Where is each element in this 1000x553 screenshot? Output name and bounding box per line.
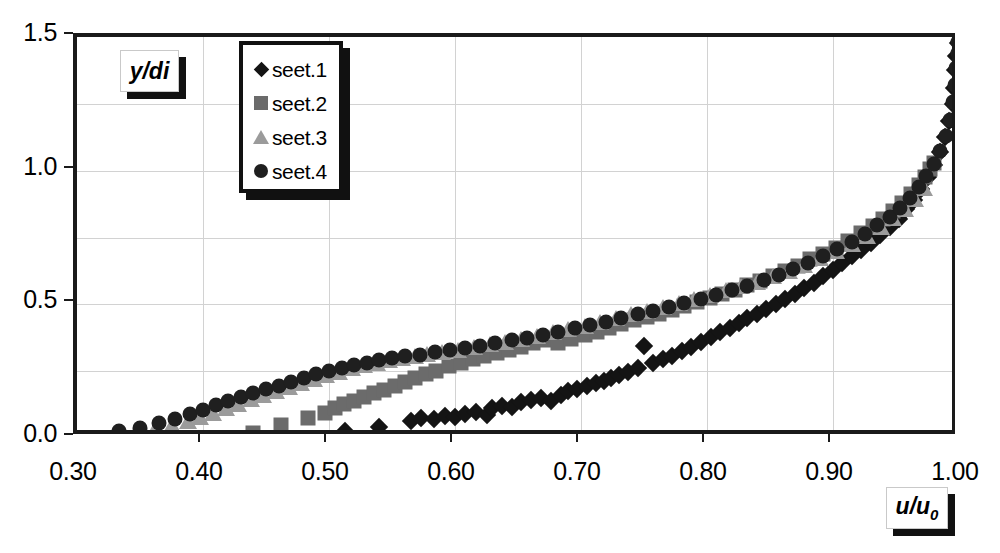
data-point-seet-3 xyxy=(576,318,594,334)
x-tick-mark xyxy=(198,434,200,442)
data-point-seet-4 xyxy=(296,371,311,386)
data-point-seet-3 xyxy=(368,355,386,371)
data-point-seet-2 xyxy=(454,355,469,370)
data-point-seet-1 xyxy=(681,338,699,356)
y-tick-mark xyxy=(64,166,73,168)
data-point-seet-4 xyxy=(551,324,566,339)
y-tick-label: 0.5 xyxy=(0,287,57,312)
data-point-seet-2 xyxy=(407,370,422,385)
data-point-seet-1 xyxy=(370,418,388,434)
data-point-seet-1 xyxy=(889,210,907,228)
data-point-seet-2 xyxy=(274,418,289,433)
x-tick-label: 0.50 xyxy=(265,459,385,484)
data-point-seet-3 xyxy=(406,348,424,364)
data-point-seet-2 xyxy=(318,405,333,420)
data-point-seet-2 xyxy=(828,240,843,255)
legend-item-seet-1[interactable]: seet.1 xyxy=(243,52,339,86)
data-point-seet-2 xyxy=(626,313,641,328)
data-point-seet-3 xyxy=(317,367,335,383)
data-point-seet-3 xyxy=(748,274,766,290)
data-point-seet-2 xyxy=(926,155,941,170)
data-point-seet-1 xyxy=(521,391,539,409)
data-point-seet-3 xyxy=(896,201,914,217)
data-point-seet-2 xyxy=(702,290,717,305)
data-point-seet-1 xyxy=(786,284,804,302)
diamond-marker-icon xyxy=(251,64,271,75)
data-point-seet-2 xyxy=(639,310,654,325)
y-tick-label: 1.5 xyxy=(0,20,57,45)
data-point-seet-4 xyxy=(948,78,955,93)
gridline-horizontal xyxy=(77,104,952,105)
gridline-horizontal xyxy=(77,304,952,305)
data-point-seet-4 xyxy=(645,303,660,318)
data-point-seet-2 xyxy=(526,336,541,351)
data-point-seet-2 xyxy=(513,339,528,354)
data-point-seet-4 xyxy=(756,273,771,288)
data-point-seet-4 xyxy=(458,341,473,356)
data-point-seet-3 xyxy=(915,180,933,196)
data-point-seet-1 xyxy=(729,314,747,332)
y-tick-mark xyxy=(64,299,73,301)
x-tick-label: 0.30 xyxy=(13,459,133,484)
x-tick-mark xyxy=(828,434,830,442)
data-point-seet-4 xyxy=(111,424,126,434)
legend-item-seet-4[interactable]: seet.4 xyxy=(243,154,339,188)
data-point-seet-3 xyxy=(544,324,562,340)
data-point-seet-2 xyxy=(502,342,517,357)
data-point-seet-4 xyxy=(725,283,740,298)
data-point-seet-3 xyxy=(717,282,735,298)
data-point-seet-4 xyxy=(708,287,723,302)
data-point-seet-2 xyxy=(397,374,412,389)
data-point-seet-2 xyxy=(601,320,616,335)
data-point-seet-3 xyxy=(267,383,285,399)
data-point-seet-3 xyxy=(906,191,924,207)
data-point-seet-1 xyxy=(511,393,529,411)
data-point-seet-2 xyxy=(727,282,742,297)
x-tick-mark xyxy=(702,434,704,442)
data-point-seet-2 xyxy=(489,345,504,360)
data-point-seet-2 xyxy=(387,378,402,393)
data-point-seet-2 xyxy=(246,425,261,434)
data-point-seet-4 xyxy=(208,398,223,413)
data-point-seet-2 xyxy=(677,298,692,313)
data-point-seet-4 xyxy=(397,349,412,364)
plot-area xyxy=(73,33,955,434)
data-point-seet-1 xyxy=(795,279,813,297)
data-point-seet-4 xyxy=(829,242,844,257)
legend-item-label: seet.2 xyxy=(272,93,327,114)
legend-item-seet-3[interactable]: seet.3 xyxy=(243,120,339,154)
data-point-seet-4 xyxy=(359,355,374,370)
data-point-seet-1 xyxy=(776,290,794,308)
chart-container: y/di u/u0 0.00.51.01.50.300.400.500.600.… xyxy=(0,0,1000,553)
data-point-seet-3 xyxy=(449,342,467,358)
data-point-seet-1 xyxy=(542,391,560,409)
data-point-seet-1 xyxy=(710,323,728,341)
data-point-seet-1 xyxy=(862,234,880,252)
data-point-seet-4 xyxy=(309,367,324,382)
data-point-seet-1 xyxy=(904,191,922,209)
data-point-seet-2 xyxy=(886,203,901,218)
data-point-seet-3 xyxy=(163,417,181,433)
data-point-seet-3 xyxy=(191,409,209,425)
data-point-seet-4 xyxy=(857,226,872,241)
data-point-seet-2 xyxy=(866,219,881,234)
data-point-seet-1 xyxy=(940,112,955,130)
data-point-seet-3 xyxy=(884,210,902,226)
y-tick-mark xyxy=(64,433,73,435)
x-tick-mark xyxy=(324,434,326,442)
data-point-seet-3 xyxy=(811,250,829,266)
data-point-seet-1 xyxy=(880,218,898,236)
legend-item-seet-2[interactable]: seet.2 xyxy=(243,86,339,120)
data-point-seet-4 xyxy=(939,128,954,143)
data-point-seet-3 xyxy=(418,346,436,362)
data-point-seet-3 xyxy=(179,413,197,429)
data-point-seet-4 xyxy=(412,347,427,362)
data-point-seet-2 xyxy=(590,324,605,339)
data-point-seet-1 xyxy=(931,143,949,161)
data-point-seet-3 xyxy=(496,334,514,350)
data-point-seet-2 xyxy=(853,226,868,241)
data-point-seet-3 xyxy=(512,331,530,347)
data-point-seet-1 xyxy=(720,319,738,337)
data-point-seet-2 xyxy=(337,396,352,411)
data-point-seet-2 xyxy=(465,352,480,367)
